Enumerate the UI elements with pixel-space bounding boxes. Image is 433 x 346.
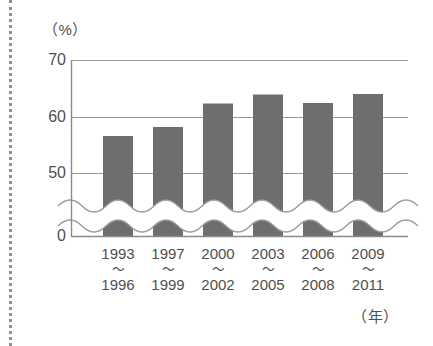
x-category-4-to: 2005 bbox=[243, 277, 293, 292]
y-tick-label-70: 70 bbox=[30, 52, 66, 68]
x-category-5-to: 2008 bbox=[293, 277, 343, 292]
x-axis-unit-label: （年） bbox=[352, 305, 399, 326]
x-category-3-sep: 〜 bbox=[196, 261, 241, 277]
x-category-label-1: 1993 〜 1996 bbox=[93, 246, 143, 292]
x-category-label-6: 2009 〜 2011 bbox=[343, 246, 393, 292]
x-category-1-to: 1996 bbox=[93, 277, 143, 292]
x-category-2-from: 1997 bbox=[143, 246, 193, 261]
x-category-5-sep: 〜 bbox=[296, 261, 341, 277]
bar-chart-figure: （%） 70 60 50 0 bbox=[0, 0, 433, 346]
y-tick-label-0: 0 bbox=[30, 228, 66, 244]
x-category-label-4: 2003 〜 2005 bbox=[243, 246, 293, 292]
x-category-label-5: 2006 〜 2008 bbox=[293, 246, 343, 292]
x-category-1-sep: 〜 bbox=[96, 261, 141, 277]
x-category-4-sep: 〜 bbox=[246, 261, 291, 277]
x-category-3-to: 2002 bbox=[193, 277, 243, 292]
x-category-5-from: 2006 bbox=[293, 246, 343, 261]
x-category-label-3: 2000 〜 2002 bbox=[193, 246, 243, 292]
y-tick-label-60: 60 bbox=[30, 109, 66, 125]
x-category-6-from: 2009 bbox=[343, 246, 393, 261]
x-category-3-from: 2000 bbox=[193, 246, 243, 261]
x-category-6-to: 2011 bbox=[343, 277, 393, 292]
x-category-6-sep: 〜 bbox=[346, 261, 391, 277]
x-category-1-from: 1993 bbox=[93, 246, 143, 261]
x-category-2-sep: 〜 bbox=[146, 261, 191, 277]
y-tick-label-50: 50 bbox=[30, 165, 66, 181]
x-category-4-from: 2003 bbox=[243, 246, 293, 261]
x-category-label-2: 1997 〜 1999 bbox=[143, 246, 193, 292]
x-category-2-to: 1999 bbox=[143, 277, 193, 292]
